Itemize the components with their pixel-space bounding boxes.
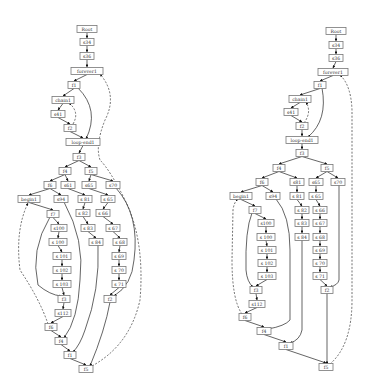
node-s82: s 82 — [76, 210, 90, 217]
node-label: forever1 — [323, 70, 343, 75]
edge-f2b-to-f5b — [90, 302, 110, 366]
edge-f6-to-s94 — [262, 186, 273, 193]
node-label: f6 — [48, 183, 53, 188]
node-s36: s36 — [329, 55, 343, 62]
edge-s112-to-f6b — [245, 308, 257, 314]
node-f6: f6 — [256, 179, 268, 186]
node-s36: s36 — [80, 53, 94, 60]
node-begin1: begin1 — [18, 196, 40, 203]
node-chain1: chain1 — [289, 96, 311, 103]
edge-s68-to-s69 — [119, 246, 120, 253]
edge-f1-to-loopend1 — [78, 88, 91, 139]
node-label: s 81 — [80, 197, 90, 202]
node-label: s 82 — [78, 211, 88, 216]
node-label: s94 — [57, 197, 65, 202]
node-s70b: s 70 — [313, 260, 327, 267]
node-root: Root — [326, 28, 346, 35]
edge-f4-to-f6 — [262, 172, 279, 179]
edge-s100b-to-s101 — [266, 241, 267, 247]
node-s100b: s 100 — [49, 239, 67, 246]
node-s41: s41 — [284, 109, 298, 116]
edge-f2-to-chain1 — [69, 103, 76, 124]
edge-s66-to-s67 — [103, 217, 113, 225]
edge-s71-to-f2b — [320, 280, 327, 287]
edge-begin1-to-f7 — [29, 203, 53, 211]
node-label: s112 — [57, 311, 68, 316]
node-s102: s 102 — [53, 267, 71, 274]
node-label: s100 — [260, 221, 271, 226]
node-f1b: f1 — [64, 352, 76, 359]
node-s94: s94 — [54, 196, 68, 203]
node-label: f6 — [49, 325, 54, 330]
node-label: f5 — [84, 367, 89, 372]
node-label: f6 — [243, 315, 248, 320]
node-label: forever1 — [77, 69, 97, 74]
edge-f2-to-chain1 — [304, 102, 309, 123]
node-f5: f5 — [321, 165, 333, 172]
node-label: s 71 — [114, 282, 124, 287]
edge-f1b-to-f5b — [286, 350, 326, 364]
node-s84: s 84 — [295, 234, 309, 241]
edge-s103-to-f3b — [256, 280, 267, 287]
node-label: f5 — [325, 166, 330, 171]
node-s66: s 66 — [313, 207, 327, 214]
node-s71: s 71 — [313, 273, 327, 280]
node-s81: s81 — [290, 179, 304, 186]
node-s65: s65 — [82, 182, 96, 189]
node-label: s 84 — [297, 235, 307, 240]
edge-s103-to-f3b — [62, 288, 64, 296]
edge-f4-to-s81 — [279, 172, 297, 179]
node-f4b: f4 — [257, 328, 271, 335]
edge-f3b-to-s112 — [256, 294, 257, 301]
node-s81: s 81 — [78, 196, 92, 203]
node-s83: s 83 — [295, 220, 309, 227]
edge-f6b-to-f4b — [51, 331, 61, 338]
node-label: Root — [82, 27, 93, 32]
node-f4: f4 — [59, 168, 71, 175]
node-f5: f5 — [85, 168, 97, 175]
node-s102: s 102 — [258, 260, 276, 267]
node-s66: s 66 — [96, 210, 110, 217]
node-s67: s 67 — [313, 220, 327, 227]
edge-f3-to-f5 — [79, 161, 91, 168]
edge-s84-to-f1b — [73, 245, 98, 352]
edge-f3b-to-s112 — [63, 303, 64, 310]
node-label: s 103 — [56, 282, 69, 287]
node-label: s 83 — [297, 221, 307, 226]
node-label: s81 — [293, 180, 301, 185]
edge-f3-to-f5 — [302, 157, 327, 165]
edge-forever1-to-f1 — [320, 76, 333, 82]
node-label: f5 — [324, 365, 329, 370]
node-f6b: f6 — [239, 314, 251, 321]
edge-s82-to-s83 — [83, 217, 88, 225]
edge-s100b-to-s101 — [58, 246, 62, 253]
right-flow-graph: Roots34s36forever1f1chain1s41f2loop-end1… — [230, 28, 352, 371]
node-label: s 83 — [83, 226, 93, 231]
node-label: f1 — [72, 83, 77, 88]
node-s112: s112 — [249, 301, 265, 308]
node-forever1: forever1 — [71, 68, 103, 75]
node-label: f4 — [262, 329, 267, 334]
node-label: s94 — [269, 194, 277, 199]
node-s103: s 103 — [258, 273, 276, 280]
edge-s65-to-s65b — [89, 189, 108, 196]
node-label: s36 — [332, 56, 340, 61]
flow-graph-figure: Roots34s36forever1f1chain1s41f2loop-end1… — [0, 0, 369, 391]
node-chain1: chain1 — [52, 97, 74, 104]
node-label: f2 — [68, 126, 73, 131]
node-label: s 84 — [91, 240, 101, 245]
node-s84: s 84 — [89, 239, 103, 246]
node-s65b: s 65 — [309, 193, 323, 200]
node-f1b: f1 — [279, 343, 293, 350]
node-s70b: s 70 — [112, 267, 126, 274]
edge-f6b-to-begin1 — [232, 199, 242, 314]
node-label: s61 — [64, 183, 72, 188]
edge-f6-to-begin1 — [241, 186, 262, 193]
edge-f1b-to-f5b — [70, 359, 86, 366]
node-label: s 71 — [315, 274, 325, 279]
node-s68: s 68 — [313, 234, 327, 241]
node-begin1: begin1 — [230, 193, 252, 200]
edge-f6-to-s94 — [50, 189, 61, 196]
node-label: f1 — [318, 83, 323, 88]
edge-loopend1-to-f3 — [79, 146, 83, 154]
